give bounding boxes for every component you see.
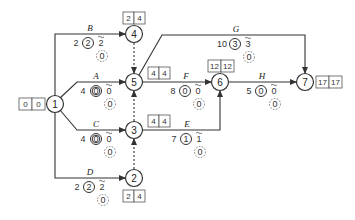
svg-text:1: 1: [52, 99, 58, 110]
svg-text:0: 0: [196, 99, 201, 109]
svg-text:4: 4: [80, 134, 85, 144]
svg-text:0: 0: [182, 86, 187, 96]
svg-text:0: 0: [93, 86, 98, 96]
svg-text:7: 7: [302, 77, 308, 88]
activity-label-F: F 8 0 0 0: [170, 71, 204, 110]
svg-text:0: 0: [258, 86, 263, 96]
svg-text:3: 3: [131, 125, 137, 136]
svg-text:D: D: [86, 167, 94, 177]
svg-text:4: 4: [162, 117, 167, 126]
svg-text:17: 17: [331, 78, 340, 87]
svg-text:0: 0: [23, 100, 28, 109]
activity-label-D: D 2 2 2 0: [74, 167, 108, 206]
svg-text:10: 10: [217, 39, 227, 49]
svg-text:4: 4: [151, 117, 156, 126]
svg-text:2: 2: [98, 38, 103, 48]
svg-text:4: 4: [80, 86, 85, 96]
activity-label-A: A 4 0 0 0: [80, 71, 115, 110]
svg-text:4: 4: [151, 69, 156, 78]
svg-text:2: 2: [86, 182, 91, 192]
node-6: 6 1212: [208, 60, 234, 91]
svg-text:F: F: [182, 71, 189, 81]
svg-text:7: 7: [171, 134, 176, 144]
svg-text:4: 4: [137, 14, 142, 23]
svg-text:4: 4: [131, 29, 137, 40]
svg-text:8: 8: [170, 86, 175, 96]
activity-label-B: B 2 2 2 0: [73, 23, 107, 62]
svg-text:2: 2: [99, 182, 104, 192]
svg-text:A: A: [92, 71, 99, 81]
svg-text:H: H: [258, 71, 266, 81]
svg-text:12: 12: [223, 62, 232, 71]
svg-text:0: 0: [100, 195, 105, 205]
svg-text:0: 0: [99, 51, 104, 61]
svg-text:0: 0: [246, 52, 251, 62]
svg-text:0: 0: [271, 86, 276, 96]
svg-text:1: 1: [183, 134, 188, 144]
node-4: 4 24: [123, 12, 145, 43]
node-3: 3 44: [126, 115, 171, 139]
svg-text:0: 0: [107, 99, 112, 109]
node-2: 2 24: [123, 170, 145, 203]
activity-label-H: H 5 0 0 0: [246, 71, 280, 110]
svg-text:2: 2: [74, 182, 79, 192]
svg-text:E: E: [183, 119, 190, 129]
svg-text:0: 0: [272, 99, 277, 109]
svg-text:2: 2: [85, 38, 90, 48]
svg-text:2: 2: [126, 192, 131, 201]
svg-text:G: G: [233, 24, 240, 34]
svg-text:0: 0: [197, 147, 202, 157]
svg-text:3: 3: [245, 39, 250, 49]
svg-text:3: 3: [232, 39, 237, 49]
svg-text:4: 4: [162, 69, 167, 78]
activity-label-C: C 4 0 0 0: [80, 119, 115, 158]
svg-text:2: 2: [126, 14, 131, 23]
svg-text:0: 0: [195, 86, 200, 96]
activity-network-diagram: B 2 2 2 0 A 4 0 0 0 C 4 0 0 0 D 2 2 2: [0, 0, 355, 220]
activity-label-G: G 10 3 3 0: [217, 24, 255, 63]
svg-text:4: 4: [137, 192, 142, 201]
svg-text:2: 2: [131, 173, 137, 184]
svg-text:0: 0: [36, 100, 41, 109]
svg-text:0: 0: [106, 134, 111, 144]
svg-text:0: 0: [107, 147, 112, 157]
svg-text:17: 17: [318, 78, 327, 87]
node-7: 7 1717: [297, 74, 343, 91]
svg-text:0: 0: [93, 134, 98, 144]
svg-text:1: 1: [196, 134, 201, 144]
svg-text:12: 12: [210, 62, 219, 71]
svg-text:2: 2: [73, 38, 78, 48]
svg-text:6: 6: [217, 77, 223, 88]
svg-text:0: 0: [106, 86, 111, 96]
activity-label-E: E 7 1 1 0: [171, 119, 205, 158]
node-5: 5 44: [126, 67, 171, 91]
svg-text:B: B: [87, 23, 93, 33]
svg-text:C: C: [93, 119, 100, 129]
svg-text:5: 5: [131, 77, 137, 88]
svg-text:5: 5: [246, 86, 251, 96]
node-1: 1 00: [19, 96, 64, 113]
